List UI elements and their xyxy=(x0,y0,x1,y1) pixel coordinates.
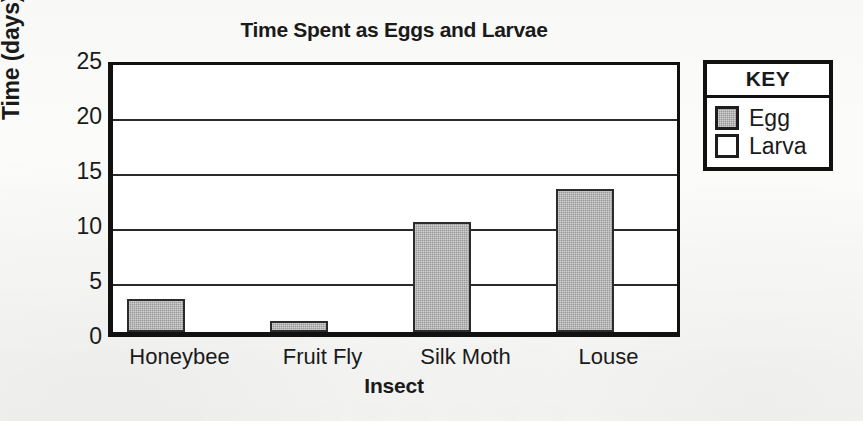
legend-key-box: KEY EggLarva xyxy=(703,60,833,171)
y-tick-label: 20 xyxy=(56,105,102,128)
bar-louse-egg[interactable] xyxy=(556,189,614,332)
bar-honeybee-egg[interactable] xyxy=(127,299,185,332)
x-tick-label: Fruit Fly xyxy=(251,344,394,370)
legend-item-larva[interactable]: Larva xyxy=(707,132,829,160)
bar-slot xyxy=(413,65,471,332)
x-tick-label: Louse xyxy=(537,344,680,370)
egg-swatch-icon xyxy=(715,106,739,130)
y-axis-title: Time (days) xyxy=(0,0,25,120)
bar-slot xyxy=(328,65,386,332)
legend-item-egg[interactable]: Egg xyxy=(707,104,829,132)
x-tick-label: Silk Moth xyxy=(394,344,537,370)
bar-slot xyxy=(270,65,328,332)
legend-title: KEY xyxy=(707,64,829,98)
y-tick-label: 5 xyxy=(56,270,102,293)
x-axis-tick-labels: HoneybeeFruit FlySilk MothLouse xyxy=(108,344,680,370)
plot-area xyxy=(108,62,680,337)
bar-fruit-fly-egg[interactable] xyxy=(270,321,328,332)
y-tick-label: 0 xyxy=(56,325,102,348)
y-tick-label: 10 xyxy=(56,215,102,238)
legend-items: EggLarva xyxy=(707,98,829,167)
bar-silk-moth-egg[interactable] xyxy=(413,222,471,332)
x-tick-label: Honeybee xyxy=(108,344,251,370)
bar-slot xyxy=(614,65,672,332)
chart-title: Time Spent as Eggs and Larvae xyxy=(108,18,680,42)
legend-item-label: Larva xyxy=(749,135,807,158)
bar-slot xyxy=(127,65,185,332)
bar-slot xyxy=(556,65,614,332)
x-axis-title: Insect xyxy=(108,374,680,398)
chart-page: Time Spent as Eggs and Larvae Time (days… xyxy=(0,0,863,421)
bar-slot xyxy=(471,65,529,332)
y-tick-label: 25 xyxy=(56,50,102,73)
legend-item-label: Egg xyxy=(749,107,790,130)
bar-slot xyxy=(185,65,243,332)
larva-swatch-icon xyxy=(715,134,739,158)
y-tick-label: 15 xyxy=(56,160,102,183)
